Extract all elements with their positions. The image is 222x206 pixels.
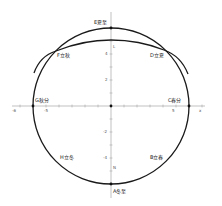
label-F-start-of-autumn: F立秋 (57, 52, 70, 59)
point-E (110, 27, 113, 30)
marker-L: L (113, 44, 116, 49)
label-D-start-of-summer: D立夏 (150, 52, 164, 58)
point-C (188, 105, 191, 108)
point-O (110, 105, 113, 108)
y-tick-label-neg2: -2 (103, 129, 107, 134)
x-tick-label-5: 5 (172, 108, 175, 113)
y-tick-label-2: 2 (105, 77, 108, 82)
label-C-spring-equinox: C春分 (168, 97, 182, 104)
marker-N: N (113, 165, 116, 170)
label-G-autumn-equinox: G秋分 (35, 97, 49, 104)
x-left-end-label: -6 (12, 108, 16, 113)
y-tick-label-4: 4 (105, 51, 108, 56)
point-G (32, 105, 35, 108)
x-axis-label: x (199, 108, 202, 113)
point-A (110, 183, 113, 186)
label-H-start-of-winter: H立冬 (60, 154, 74, 161)
solar-terms-diagram: -6 -5 5 x 4 2 -2 -4 L N E夏至 F立秋 D立夏 G秋分 … (0, 0, 222, 206)
label-B-start-of-spring: B立春 (150, 154, 163, 161)
label-A-winter-solstice: A冬至 (113, 188, 126, 195)
y-tick-label-neg4: -4 (103, 155, 107, 160)
label-E-summer-solstice: E夏至 (94, 19, 107, 25)
x-tick-label-neg5: -5 (44, 108, 48, 113)
